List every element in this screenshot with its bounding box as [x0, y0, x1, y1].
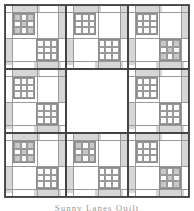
- patch-square: [173, 117, 180, 124]
- nine-patch-bottom-right: [98, 167, 120, 189]
- patch-square: [143, 14, 150, 21]
- patch-square: [14, 155, 21, 162]
- patch-square: [27, 21, 34, 28]
- patch-square: [51, 175, 58, 182]
- patch-square: [173, 53, 180, 60]
- inner-right: [58, 6, 59, 68]
- quilt-block-r2c3: [128, 69, 189, 133]
- patch-square: [143, 27, 150, 34]
- patch-square: [21, 27, 28, 34]
- patch-square: [112, 168, 119, 175]
- patch-square: [173, 181, 180, 188]
- patch-square: [37, 168, 44, 175]
- patch-square: [14, 85, 21, 92]
- strip-bottom: [156, 190, 184, 196]
- patch-square: [167, 53, 174, 60]
- patch-square: [44, 40, 51, 47]
- patch-square: [160, 181, 167, 188]
- patch-square: [27, 142, 34, 149]
- patch-square: [21, 155, 28, 162]
- patch-square: [44, 168, 51, 175]
- patch-square: [112, 40, 119, 47]
- patch-square: [89, 27, 96, 34]
- patch-square: [99, 175, 106, 182]
- patch-square: [167, 40, 174, 47]
- quilt-block-r2c1: [5, 69, 66, 133]
- nine-patch-top-left: [13, 141, 35, 163]
- patch-square: [37, 47, 44, 54]
- patch-square: [167, 111, 174, 118]
- nine-patch-top-left: [13, 13, 35, 35]
- patch-square: [173, 40, 180, 47]
- patch-square: [89, 149, 96, 156]
- patch-square: [150, 21, 157, 28]
- patch-square: [51, 111, 58, 118]
- patch-square: [44, 181, 51, 188]
- inner-right: [58, 134, 59, 196]
- patch-square: [51, 47, 58, 54]
- strip-bottom: [156, 126, 184, 132]
- patch-square: [27, 149, 34, 156]
- patch-square: [21, 78, 28, 85]
- patch-square: [137, 155, 144, 162]
- patch-square: [37, 53, 44, 60]
- patch-square: [21, 85, 28, 92]
- patch-square: [173, 175, 180, 182]
- patch-square: [44, 47, 51, 54]
- patch-square: [99, 181, 106, 188]
- patch-square: [37, 40, 44, 47]
- patch-square: [105, 175, 112, 182]
- patch-square: [112, 175, 119, 182]
- inner-bottom: [129, 125, 188, 126]
- patch-square: [75, 21, 82, 28]
- figure-caption: Sunny Lanes Quilt: [0, 203, 194, 211]
- inner-bottom: [6, 189, 65, 190]
- patch-square: [14, 142, 21, 149]
- patch-square: [14, 14, 21, 21]
- patch-square: [14, 91, 21, 98]
- nine-patch-top-left: [136, 77, 158, 99]
- patch-square: [160, 53, 167, 60]
- strip-right: [59, 70, 65, 102]
- patch-square: [150, 155, 157, 162]
- patch-square: [44, 104, 51, 111]
- strip-right: [182, 6, 188, 38]
- patch-square: [99, 40, 106, 47]
- patch-square: [137, 14, 144, 21]
- patch-square: [150, 85, 157, 92]
- strip-right: [182, 70, 188, 102]
- nine-patch-top-left: [74, 141, 96, 163]
- patch-square: [51, 53, 58, 60]
- patch-square: [27, 27, 34, 34]
- patch-square: [21, 91, 28, 98]
- patch-square: [137, 91, 144, 98]
- nine-patch-bottom-right: [36, 103, 58, 125]
- inner-right: [181, 134, 182, 196]
- quilt-block-r3c1: [5, 133, 66, 197]
- inner-right: [120, 134, 121, 196]
- nine-patch-bottom-right: [159, 103, 181, 125]
- quilt-block-r2c2: [66, 69, 127, 133]
- patch-square: [21, 21, 28, 28]
- patch-square: [37, 181, 44, 188]
- patch-square: [137, 85, 144, 92]
- patch-square: [160, 168, 167, 175]
- patch-square: [167, 181, 174, 188]
- patch-square: [150, 14, 157, 21]
- patch-square: [173, 104, 180, 111]
- patch-square: [89, 155, 96, 162]
- patch-square: [51, 40, 58, 47]
- patch-square: [150, 142, 157, 149]
- patch-square: [137, 142, 144, 149]
- patch-square: [75, 27, 82, 34]
- patch-square: [14, 27, 21, 34]
- patch-square: [105, 47, 112, 54]
- patch-square: [137, 78, 144, 85]
- patch-square: [167, 168, 174, 175]
- patch-square: [82, 142, 89, 149]
- patch-square: [137, 27, 144, 34]
- nine-patch-bottom-right: [159, 167, 181, 189]
- patch-square: [89, 21, 96, 28]
- nine-patch-bottom-right: [98, 39, 120, 61]
- inner-bottom: [129, 61, 188, 62]
